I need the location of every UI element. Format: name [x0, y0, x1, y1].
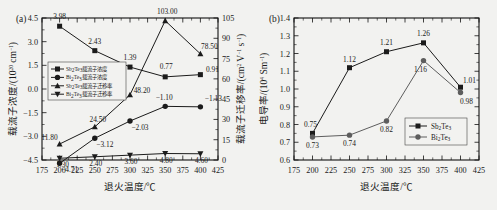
panel-a-data-label: 3.98	[53, 12, 66, 21]
panel-b-ytick-label: 1.1	[280, 67, 290, 76]
panel-a-data-label: 0.77	[160, 62, 173, 71]
panel-b-data-label: 0.98	[460, 97, 473, 106]
panel-a-carrier-concentration: 1752002252502753003253503754004254.53.01…	[0, 0, 250, 210]
panel-a-data-label: 1.39	[124, 53, 137, 62]
panel-a-xtick-label: 175	[36, 166, 48, 175]
panel-a-ytick-right-label: 90	[222, 34, 230, 43]
panel-b-xtick-label: 350	[417, 166, 429, 175]
panel-b-ytick-label: 0.9	[280, 103, 290, 112]
panel-b-data-label: 1.26	[417, 29, 430, 38]
panel-b-xtick-label: 275	[362, 166, 374, 175]
panel-b-ytick-label: 0.7	[280, 138, 290, 147]
panel-a-data-label: 3.60	[125, 157, 138, 166]
panel-a-xtick-label: 275	[106, 166, 118, 175]
panel-a-xtick-label: 325	[141, 166, 153, 175]
panel-a-ytick-right-label: 30	[222, 115, 230, 124]
panel-b-data-label: 0.73	[306, 141, 319, 150]
panel-b-xaxis-title: 退火温度/℃	[360, 181, 413, 192]
figure-container: 1752002252502753003253503754004254.53.01…	[0, 0, 497, 210]
panel-b-conductivity: 1752002252502753003253503754004250.60.70…	[247, 0, 497, 210]
panel-b-xtick-label: 175	[288, 166, 300, 175]
panel-b-xtick-label: 375	[436, 166, 448, 175]
panel-b-ytick-label: 1.3	[280, 32, 290, 41]
panel-b-xtick-label: 325	[399, 166, 411, 175]
panel-a-ytick-left-label: 1.5	[28, 61, 38, 70]
panel-a-xtick-label: 400	[194, 166, 206, 175]
panel-a-data-label: −3.12	[96, 140, 113, 149]
panel-a-svg: 1752002252502753003253503754004254.53.01…	[0, 0, 250, 210]
panel-a-xtick-label: 375	[177, 166, 189, 175]
panel-b-yaxis-title: 电导率/(104 Sm−1)	[258, 53, 270, 125]
panel-a-data-label: 24.50	[89, 115, 106, 124]
panel-b-xtick-label: 300	[380, 166, 392, 175]
panel-a-xtick-label: 350	[159, 166, 171, 175]
panel-b-data-label: 1.21	[380, 38, 393, 47]
panel-a-ytick-left-label: 4.5	[28, 14, 38, 23]
panel-a-ytick-right-label: 105	[222, 14, 234, 23]
panel-a-data-label: −1.10	[156, 93, 173, 102]
panel-a-data-label: 1.30	[56, 160, 69, 169]
panel-b-ytick-label: 0.8	[280, 121, 290, 130]
panel-b-legend-label: Sb2Te3	[431, 123, 451, 131]
panel-a-ytick-left-label: −1.5	[23, 109, 38, 118]
panel-a-ytick-right-label: 0	[222, 156, 226, 165]
panel-a-ytick-left-label: −4.5	[23, 156, 38, 165]
panel-b-xtick-label: 225	[325, 166, 337, 175]
panel-b-xtick-label: 200	[306, 166, 318, 175]
panel-a-data-label: 2.40	[89, 159, 102, 168]
panel-a-ytick-right-label: 60	[222, 75, 230, 84]
panel-a-ytick-right-label: 15	[222, 136, 230, 145]
panel-a-data-label: 0.91	[206, 65, 219, 74]
panel-b-xtick-label: 250	[343, 166, 355, 175]
panel-a-data-label: −1.13	[205, 94, 222, 103]
panel-a-label: (a)	[16, 14, 26, 25]
panel-b-xtick-label: 400	[454, 166, 466, 175]
panel-a-yaxis-right-title: 载流子迁移率/(cm2 V−1 s−1)	[235, 34, 247, 144]
panel-a-data-label: 11.80	[41, 133, 58, 142]
panel-b-data-label: 0.75	[304, 120, 317, 129]
panel-a-data-label: −2.03	[131, 123, 148, 132]
panel-a-data-label: 48.20	[134, 86, 151, 95]
panel-b-svg: 1752002252502753003253503754004250.60.70…	[247, 0, 497, 210]
panel-a-data-label: 103.00	[157, 7, 178, 16]
panel-a-ytick-left-label: −3.0	[23, 132, 38, 141]
panel-b-xtick-label: 425	[473, 166, 485, 175]
panel-a-yaxis-left-title: 载流子浓度/(1020 cm−1)	[7, 42, 19, 136]
panel-a-data-label: 4.80	[160, 156, 173, 165]
panel-a-data-label: 78.50	[201, 42, 218, 51]
panel-a-ytick-left-label: 3.0	[28, 38, 38, 47]
panel-a-xtick-label: 300	[124, 166, 136, 175]
panel-a-ytick-right-label: 75	[222, 55, 230, 64]
panel-b-ytick-label: 1.0	[280, 85, 290, 94]
panel-a-ytick-right-label: 45	[222, 95, 230, 104]
panel-b-data-label: 0.74	[343, 139, 356, 148]
panel-a-data-label: 4.60	[195, 156, 208, 165]
panel-b-data-label: 0.82	[380, 125, 393, 134]
panel-b-ytick-label: 1.2	[280, 50, 290, 59]
panel-b-data-label: 1.12	[343, 55, 356, 64]
panel-b-label: (b)	[269, 14, 280, 25]
panel-b-ytick-label: 0.6	[280, 156, 290, 165]
panel-b-ytick-label: 1.4	[280, 14, 290, 23]
panel-b-data-label: 1.01	[463, 76, 476, 85]
panel-a-xtick-label: 425	[212, 166, 224, 175]
panel-a-data-label: 2.43	[88, 37, 101, 46]
panel-a-xaxis-title: 退火温度/℃	[104, 181, 157, 192]
panel-a-ytick-left-label: 0.0	[28, 85, 38, 94]
panel-b-data-label: 1.16	[414, 65, 427, 74]
